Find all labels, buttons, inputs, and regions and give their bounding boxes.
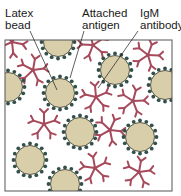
latex-agglutination-diagram: Latex bead Attached antigen IgM antibody <box>0 0 181 196</box>
diagram-canvas <box>0 0 181 196</box>
